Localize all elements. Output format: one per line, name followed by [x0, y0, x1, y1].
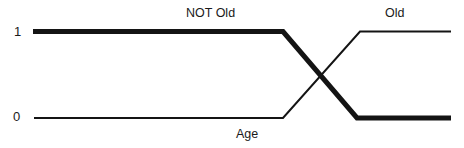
x-axis-label: Age — [236, 128, 258, 141]
curve-old — [34, 32, 451, 119]
series-label-old: Old — [385, 7, 404, 20]
fuzzy-membership-figure: 1 0 NOT Old Old Age — [0, 0, 464, 148]
series-label-not-old: NOT Old — [186, 7, 235, 20]
curve-not-old — [33, 32, 451, 119]
y-axis-tick-0: 0 — [13, 110, 20, 123]
plot-area — [0, 0, 464, 148]
y-axis-tick-1: 1 — [14, 25, 21, 38]
